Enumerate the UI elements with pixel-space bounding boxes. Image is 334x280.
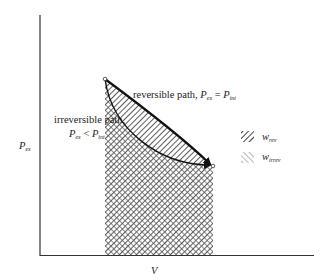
legend-rev-subscript: rev — [269, 137, 276, 143]
pv-diagram — [0, 0, 334, 280]
legend-w-symbol: w — [262, 151, 269, 162]
legend-swatch-rev — [241, 131, 254, 142]
irreversible-path-label-line1: irreversible path, — [54, 115, 125, 126]
legend-label-rev: wrev — [262, 132, 276, 143]
irreversible-text: irreversible path, — [54, 114, 125, 125]
x-axis-symbol: V — [151, 265, 157, 276]
less-than-operator: < — [81, 128, 92, 139]
equals-operator: = — [212, 89, 223, 100]
irreversible-path-label-line2: Pex < Pint — [69, 129, 105, 140]
y-axis-subscript: ex — [25, 146, 30, 152]
legend-swatch-irrev — [241, 152, 254, 163]
x-axis-label: V — [151, 266, 157, 277]
legend-label-irrev: wirrev — [262, 152, 280, 163]
reversible-text: reversible path, — [133, 89, 200, 100]
reversible-path-label: reversible path, Pex = Pint — [133, 90, 236, 101]
legend-irrev-subscript: irrev — [269, 157, 280, 163]
legend-w-symbol: w — [262, 131, 269, 142]
final-state-point — [211, 164, 215, 168]
p-int-subscript: int — [230, 95, 236, 101]
initial-state-point — [103, 77, 107, 81]
p-int-subscript: int — [98, 134, 104, 140]
y-axis-label: Pex — [19, 141, 31, 152]
